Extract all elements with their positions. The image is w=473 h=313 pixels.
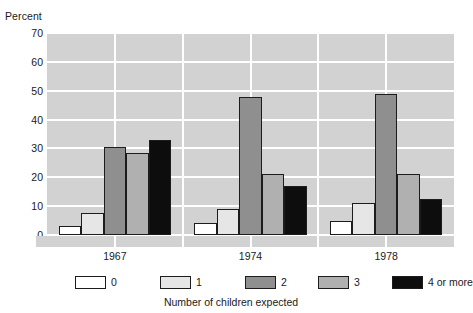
bar [59, 226, 82, 235]
gridline-vertical [317, 33, 319, 235]
y-tick-label: 40 [3, 115, 43, 125]
y-tick-label: 60 [3, 57, 43, 67]
legend-swatch-icon [75, 276, 106, 289]
x-tick-label-1978: 1978 [346, 250, 426, 262]
bar [149, 140, 172, 235]
y-tick-label: 20 [3, 172, 43, 182]
bar [104, 147, 127, 235]
band-separator [385, 236, 387, 247]
chart-legend: 01234 or more [0, 273, 462, 293]
y-axis-tick-labels: 010203040506070 [0, 33, 43, 235]
y-tick-label: 10 [3, 201, 43, 211]
legend-label: 4 or more [428, 276, 473, 288]
x-tick-label-1967: 1967 [75, 250, 155, 262]
band-separator [114, 236, 116, 247]
legend-label: 0 [111, 276, 117, 288]
y-tick-label: 70 [3, 28, 43, 38]
legend-item-0[interactable]: 0 [75, 273, 117, 291]
bar [194, 223, 217, 235]
bar [81, 213, 104, 235]
legend-item-1[interactable]: 1 [160, 273, 202, 291]
x-tick-label-1974: 1974 [211, 250, 291, 262]
legend-item-4[interactable]: 4 or more [392, 273, 473, 291]
bar [126, 153, 149, 235]
gridline-vertical [182, 33, 184, 235]
bar [330, 221, 353, 235]
legend-label: 1 [196, 276, 202, 288]
y-axis-title: Percent [5, 10, 42, 22]
bar [397, 174, 420, 235]
bar [352, 203, 375, 235]
band-separator [250, 236, 252, 247]
legend-swatch-icon [245, 276, 276, 289]
legend-swatch-icon [392, 276, 423, 289]
bar [217, 209, 240, 235]
legend-swatch-icon [160, 276, 191, 289]
y-tick-label: 50 [3, 86, 43, 96]
legend-item-2[interactable]: 2 [245, 273, 287, 291]
bar [239, 97, 262, 236]
legend-item-3[interactable]: 3 [318, 273, 360, 291]
x-axis-band [36, 236, 454, 247]
band-separator [317, 236, 319, 247]
bar [420, 199, 443, 235]
bar [262, 174, 285, 235]
bar [284, 186, 307, 235]
legend-label: 2 [281, 276, 287, 288]
x-axis-title: Number of children expected [0, 296, 462, 308]
band-separator [182, 236, 184, 247]
legend-swatch-icon [318, 276, 349, 289]
plot-area [47, 33, 454, 235]
bar [375, 94, 398, 235]
y-tick-label: 30 [3, 143, 43, 153]
legend-label: 3 [354, 276, 360, 288]
